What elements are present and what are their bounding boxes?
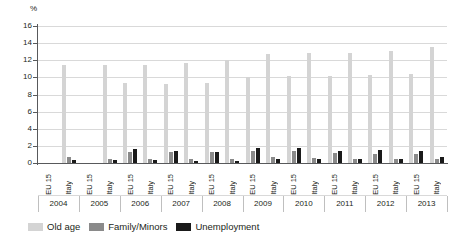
year-label: 2013 xyxy=(406,199,447,208)
bar-oldage xyxy=(266,54,270,163)
bar-unemp xyxy=(338,151,342,163)
bar-family xyxy=(333,153,337,163)
bar-oldage xyxy=(103,65,107,163)
bar-oldage xyxy=(62,65,66,163)
y-axis-unit-label: % xyxy=(30,4,37,13)
region-label: Italy xyxy=(63,181,74,195)
bar-oldage xyxy=(205,83,209,163)
bar-group xyxy=(143,26,157,163)
region-label: EU 15 xyxy=(329,174,340,195)
region-label: Italy xyxy=(227,181,238,195)
year-separator xyxy=(79,196,80,212)
bar-group xyxy=(62,26,76,163)
y-tick-label: 14 xyxy=(6,38,32,47)
bar-oldage xyxy=(430,47,434,163)
bar-oldage xyxy=(307,53,311,163)
year-label: 2007 xyxy=(161,199,202,208)
region-label: Italy xyxy=(186,181,197,195)
bar-group xyxy=(246,26,260,163)
bar-family xyxy=(128,152,132,163)
region-label: EU 15 xyxy=(165,174,176,195)
year-separator xyxy=(365,196,366,212)
bar-unemp xyxy=(317,159,321,163)
bar-family xyxy=(108,159,112,163)
bar-group xyxy=(123,26,137,163)
region-label: Italy xyxy=(104,181,115,195)
legend-label: Family/Minors xyxy=(108,221,167,232)
bar-group xyxy=(205,26,219,163)
y-tick-label: 4 xyxy=(6,124,32,133)
year-label: 2010 xyxy=(283,199,324,208)
year-label: 2005 xyxy=(79,199,120,208)
legend-swatch-unemp xyxy=(176,223,191,231)
year-separator xyxy=(120,196,121,212)
region-label: EU 15 xyxy=(206,174,217,195)
bar-groups xyxy=(38,26,447,163)
year-label: 2004 xyxy=(38,199,79,208)
bar-unemp xyxy=(174,151,178,163)
year-label: 2012 xyxy=(365,199,406,208)
bar-oldage xyxy=(123,83,127,163)
bar-group xyxy=(41,26,55,163)
bar-oldage xyxy=(409,74,413,163)
bar-unemp xyxy=(153,160,157,163)
bar-unemp xyxy=(215,152,219,163)
bar-group xyxy=(184,26,198,163)
region-label: Italy xyxy=(145,181,156,195)
bar-group xyxy=(430,26,444,163)
bar-unemp xyxy=(113,160,117,163)
bar-group xyxy=(307,26,321,163)
bar-family xyxy=(435,159,439,163)
legend-item[interactable]: Old age xyxy=(28,221,80,232)
region-label: EU 15 xyxy=(84,174,95,195)
legend-label: Old age xyxy=(47,221,80,232)
bar-group xyxy=(389,26,403,163)
bar-family xyxy=(394,159,398,163)
bar-group xyxy=(287,26,301,163)
bar-unemp xyxy=(419,151,423,163)
region-label: EU 15 xyxy=(125,174,136,195)
bar-group xyxy=(328,26,342,163)
bar-unemp xyxy=(378,150,382,163)
bar-unemp xyxy=(256,148,260,163)
bar-group xyxy=(409,26,423,163)
bar-unemp xyxy=(276,159,280,163)
bar-family xyxy=(148,159,152,163)
y-tick-label: 16 xyxy=(6,21,32,30)
y-tick-label: 0 xyxy=(6,158,32,167)
bar-oldage xyxy=(287,76,291,163)
legend-item[interactable]: Family/Minors xyxy=(89,221,167,232)
bar-oldage xyxy=(225,60,229,163)
legend-label: Unemployment xyxy=(195,221,259,232)
chart-legend: Old ageFamily/MinorsUnemployment xyxy=(28,221,259,232)
bar-chart: % 0246810121416 EU 15ItalyEU 15ItalyEU 1… xyxy=(0,0,453,244)
year-separator xyxy=(243,196,244,212)
bar-family xyxy=(353,159,357,163)
year-labels: 2004200520062007200820092010201120122013 xyxy=(38,196,447,214)
bar-family xyxy=(312,158,316,163)
bar-unemp xyxy=(297,148,301,163)
bar-oldage xyxy=(389,51,393,163)
year-separator xyxy=(283,196,284,212)
bar-oldage xyxy=(184,63,188,163)
bar-family xyxy=(373,154,377,163)
year-separator xyxy=(406,196,407,212)
region-label: Italy xyxy=(349,181,360,195)
region-label: EU 15 xyxy=(288,174,299,195)
bar-unemp xyxy=(440,157,444,163)
bar-oldage xyxy=(164,84,168,163)
bar-unemp xyxy=(358,159,362,163)
year-label: 2011 xyxy=(324,199,365,208)
bar-group xyxy=(103,26,117,163)
region-label: Italy xyxy=(309,181,320,195)
y-tick-label: 10 xyxy=(6,72,32,81)
bar-family xyxy=(251,151,255,163)
bar-family xyxy=(292,151,296,163)
bar-unemp xyxy=(133,149,137,163)
legend-swatch-oldage xyxy=(28,223,43,231)
year-separator xyxy=(38,196,39,212)
bar-group xyxy=(82,26,96,163)
legend-item[interactable]: Unemployment xyxy=(176,221,259,232)
bar-oldage xyxy=(143,65,147,163)
bar-family xyxy=(414,154,418,163)
